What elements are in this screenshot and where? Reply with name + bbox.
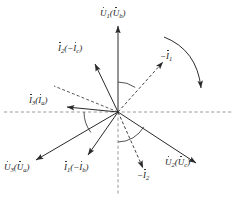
- u2-label: U2(Uc): [165, 158, 190, 167]
- rotation-direction-arrow: [164, 37, 201, 88]
- i1-vector: [88, 112, 118, 155]
- angle-arc-vertical-to-u2: [118, 127, 144, 142]
- angle-arc-u1-to-neg-i1: [118, 82, 135, 87]
- neg-i2-label: −I2: [137, 171, 149, 180]
- i3-vector: [67, 107, 118, 112]
- dashed-guide-upper-left: [54, 86, 118, 112]
- u3-vector: [36, 112, 118, 160]
- neg-i1-label: −I1: [160, 52, 172, 61]
- u1-label: U1(Ub): [100, 9, 126, 18]
- i3-label: I3(Ia): [29, 96, 48, 105]
- i1-label: I1(−Ib): [64, 163, 89, 172]
- i2-label: I2(−Ic): [58, 44, 82, 53]
- u3-label: U3(Ua): [4, 163, 30, 172]
- phasor-diagram-figure: U1(Ub) U2(Uc) U3(Ua) I1(−Ib) I2(−Ic) I3(…: [0, 0, 236, 199]
- i2-vector: [95, 64, 118, 112]
- neg-i1-vector: [118, 62, 163, 112]
